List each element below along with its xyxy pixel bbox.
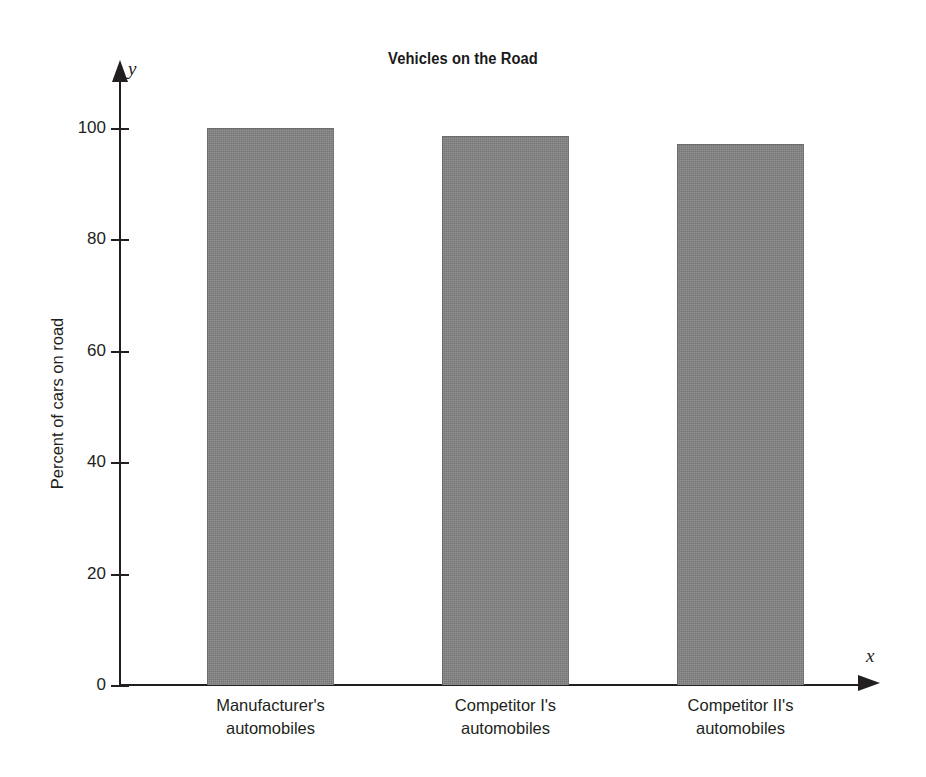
- bar-chart: Vehicles on the Road y x Percent of cars…: [0, 0, 926, 777]
- bar-competitor-ii-automobiles[interactable]: [677, 144, 804, 685]
- x-category-label-1-line2: automobiles: [425, 717, 586, 740]
- bars-layer: [0, 0, 926, 777]
- x-category-label-2: Competitor II's automobiles: [660, 694, 821, 741]
- x-category-label-1: Competitor I's automobiles: [425, 694, 586, 741]
- x-category-label-1-line1: Competitor I's: [425, 694, 586, 717]
- bar-competitor-i-automobiles[interactable]: [442, 136, 569, 685]
- x-category-label-0-line2: automobiles: [190, 717, 351, 740]
- x-category-label-0: Manufacturer's automobiles: [190, 694, 351, 741]
- bar-manufacturers-automobiles[interactable]: [207, 128, 334, 685]
- x-category-label-0-line1: Manufacturer's: [190, 694, 351, 717]
- x-category-label-2-line1: Competitor II's: [660, 694, 821, 717]
- x-category-label-2-line2: automobiles: [660, 717, 821, 740]
